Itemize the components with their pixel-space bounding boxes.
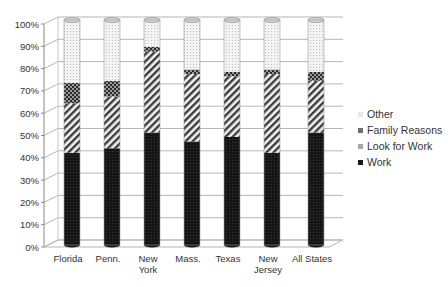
stacked-bar-chart: 0%10%20%30%40%50%60%70%80%90%100% Florid… — [0, 0, 448, 287]
y-tick-label: 0% — [25, 242, 39, 253]
wall-gridline — [44, 17, 58, 24]
wall-gridline — [44, 151, 58, 158]
bar-segment-work — [308, 133, 324, 246]
legend-swatch-work — [358, 160, 363, 165]
bar-texas — [224, 18, 240, 248]
y-tick-label: 50% — [20, 130, 40, 141]
x-tick-label: New — [258, 253, 277, 264]
y-tick-label: 70% — [20, 85, 40, 96]
x-tick-label: Jersey — [254, 264, 282, 275]
x-tick-label: New — [138, 253, 157, 264]
bar-segment-work — [184, 142, 200, 246]
bar-segment-look-for-work — [144, 52, 160, 133]
y-tick-label: 10% — [20, 219, 40, 230]
bar-segment-family-reasons — [104, 81, 120, 97]
legend-swatch-look-for-work — [358, 144, 363, 149]
legend-swatch-other — [358, 112, 363, 117]
bar-segment-work — [144, 133, 160, 246]
y-tick-label: 100% — [15, 19, 40, 30]
wall-gridline — [44, 173, 58, 180]
x-tick-label: Penn. — [96, 253, 121, 264]
bar-segment-other — [308, 20, 324, 72]
bar-segment-family-reasons — [184, 70, 200, 75]
bar-new-jersey — [264, 18, 280, 248]
wall-gridline — [44, 195, 58, 202]
legend-swatch-family-reasons — [358, 128, 363, 133]
legend-label: Work — [367, 156, 392, 168]
wall-gridline — [44, 129, 58, 136]
bar-all-states — [308, 18, 324, 248]
y-tick-label: 30% — [20, 175, 40, 186]
bar-segment-look-for-work — [104, 97, 120, 149]
bar-segment-other — [104, 20, 120, 81]
y-tick-label: 80% — [20, 63, 40, 74]
bar-segment-work — [104, 148, 120, 245]
bar-segment-work — [64, 153, 80, 245]
bar-segment-other — [144, 20, 160, 47]
legend: OtherFamily ReasonsLook for WorkWork — [358, 108, 442, 168]
wall-gridline — [44, 84, 58, 91]
wall-gridline — [44, 62, 58, 69]
legend-label: Other — [367, 108, 394, 120]
y-tick-label: 20% — [20, 197, 40, 208]
x-tick-label: Mass. — [175, 253, 200, 264]
bar-segment-family-reasons — [64, 83, 80, 103]
bar-segment-family-reasons — [308, 72, 324, 81]
wall-gridline — [44, 218, 58, 225]
x-axis-labels: FloridaPenn.NewYorkMass.TexasNewJerseyAl… — [53, 253, 332, 275]
x-tick-label: York — [139, 264, 158, 275]
bar-segment-look-for-work — [64, 103, 80, 153]
x-tick-label: All States — [292, 253, 332, 264]
x-tick-label: Texas — [216, 253, 241, 264]
bar-mass — [184, 18, 200, 248]
y-tick-label: 90% — [20, 41, 40, 52]
x-tick-label: Florida — [53, 253, 83, 264]
bar-segment-look-for-work — [264, 74, 280, 153]
bar-segment-other — [264, 20, 280, 70]
bar-segment-family-reasons — [144, 47, 160, 52]
wall-gridline — [44, 106, 58, 113]
bar-penn — [104, 18, 120, 248]
wall-gridline — [44, 39, 58, 46]
bar-segment-family-reasons — [224, 72, 240, 77]
y-tick-label: 60% — [20, 108, 40, 119]
bar-segment-work — [224, 137, 240, 245]
bar-florida — [64, 18, 80, 248]
bar-segment-look-for-work — [184, 74, 200, 142]
bar-segment-other — [64, 20, 80, 83]
y-tick-label: 40% — [20, 152, 40, 163]
bar-segment-work — [264, 153, 280, 245]
bar-segment-other — [184, 20, 200, 70]
bar-new-york — [144, 18, 160, 248]
legend-label: Look for Work — [367, 140, 433, 152]
bar-segment-family-reasons — [264, 70, 280, 75]
bar-segment-other — [224, 20, 240, 72]
bars — [64, 18, 324, 248]
bar-segment-look-for-work — [308, 81, 324, 133]
legend-label: Family Reasons — [367, 124, 442, 136]
bar-segment-look-for-work — [224, 76, 240, 137]
